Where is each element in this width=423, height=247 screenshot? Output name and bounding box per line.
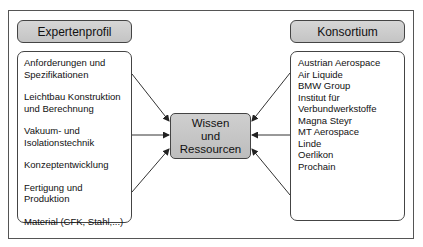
arrow-icon bbox=[132, 74, 169, 121]
arrow-icon bbox=[252, 73, 290, 121]
connector-arrows bbox=[0, 0, 423, 247]
arrow-icon bbox=[252, 149, 290, 195]
arrow-icon bbox=[132, 149, 169, 192]
